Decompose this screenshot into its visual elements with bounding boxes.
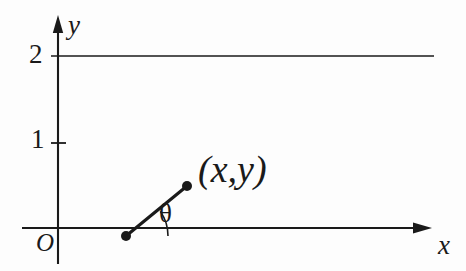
segment-end-dot bbox=[182, 181, 192, 191]
origin-label: O bbox=[36, 230, 54, 255]
y-axis-label: y bbox=[68, 12, 80, 39]
x-axis bbox=[22, 223, 432, 234]
y-axis-arrowhead bbox=[53, 15, 63, 33]
x-axis-arrowhead bbox=[413, 223, 432, 234]
theta-angle-label: θ bbox=[159, 200, 172, 227]
y-axis bbox=[53, 15, 63, 264]
x-axis-label: x bbox=[438, 232, 450, 259]
point-coordinates-label: (x,y) bbox=[198, 150, 267, 188]
tick-label-y-2: 2 bbox=[29, 41, 43, 68]
figure-canvas bbox=[0, 0, 466, 271]
coordinate-figure: y x O 2 1 (x,y) θ bbox=[0, 0, 466, 271]
tick-label-y-1: 1 bbox=[31, 126, 45, 153]
segment-start-dot bbox=[121, 231, 131, 241]
